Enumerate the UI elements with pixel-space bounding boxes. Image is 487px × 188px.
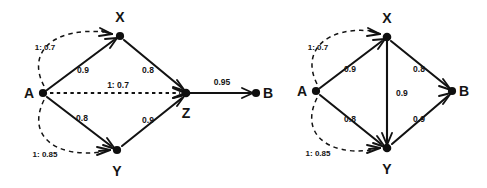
node-label-x-right: X <box>382 10 392 26</box>
edge-weight-y-b-right: 0.9 <box>413 114 425 124</box>
figure-container: A X Y Z B 0.9 0.8 0.8 0.9 1: 0.7 0.95 1:… <box>0 0 487 188</box>
arc-label-a-x: 1: 0.7 <box>35 43 56 52</box>
arc-label-a-x-right: 1: 0.7 <box>308 43 329 52</box>
arrowhead-arc-a-y <box>97 147 110 155</box>
node-b-right[interactable] <box>448 87 456 95</box>
node-b[interactable] <box>252 89 260 97</box>
node-label-b: B <box>263 85 273 101</box>
arrowhead-arc-a-x-right <box>367 28 380 36</box>
node-x[interactable] <box>116 32 124 40</box>
node-label-a-right: A <box>297 83 307 99</box>
node-x-right[interactable] <box>383 33 392 42</box>
edge-weight-a-z: 1: 0.7 <box>107 80 129 90</box>
node-label-y: Y <box>112 163 122 179</box>
arc-a-to-x <box>39 31 104 86</box>
edge-weight-x-y-right: 0.9 <box>396 88 408 98</box>
node-label-x: X <box>115 9 125 25</box>
arrowhead-arc-a-x <box>99 28 112 36</box>
edge-weight-x-z: 0.8 <box>142 65 154 75</box>
node-label-y-right: Y <box>382 161 392 177</box>
node-z[interactable] <box>182 89 191 98</box>
edge-weight-x-b-right: 0.8 <box>413 64 425 74</box>
edge-weight-a-x: 0.9 <box>77 65 89 75</box>
arc-label-a-y: 1: 0.85 <box>33 150 58 159</box>
edge-weight-z-b: 0.95 <box>214 77 231 87</box>
left-diagram: A X Y Z B 0.9 0.8 0.8 0.9 1: 0.7 0.95 1:… <box>24 9 273 179</box>
edge-weight-a-y: 0.8 <box>76 113 88 123</box>
node-label-b-right: B <box>459 83 469 99</box>
arc-a-to-y <box>39 100 101 153</box>
node-a-right[interactable] <box>312 87 320 95</box>
node-y-right[interactable] <box>383 144 392 153</box>
edge-weight-a-x-right: 0.9 <box>344 64 356 74</box>
edge-weight-a-y-right: 0.8 <box>344 114 356 124</box>
arrowhead-arc-a-y-right <box>367 145 380 153</box>
edge-weight-y-z: 0.9 <box>142 115 154 125</box>
edge-x-z <box>124 40 182 88</box>
arc-a-to-y-right <box>312 98 371 151</box>
graph-figure-canvas: A X Y Z B 0.9 0.8 0.8 0.9 1: 0.7 0.95 1:… <box>0 0 487 188</box>
node-a[interactable] <box>39 89 47 97</box>
node-label-a: A <box>24 85 34 101</box>
arc-a-to-x-right <box>312 30 372 84</box>
node-label-z: Z <box>182 105 191 121</box>
node-y[interactable] <box>113 146 121 154</box>
arc-label-a-y-right: 1: 0.85 <box>306 149 331 158</box>
right-diagram: A X Y B 0.9 0.8 0.8 0.9 0.9 1: 0.7 1: 0.… <box>297 10 469 177</box>
